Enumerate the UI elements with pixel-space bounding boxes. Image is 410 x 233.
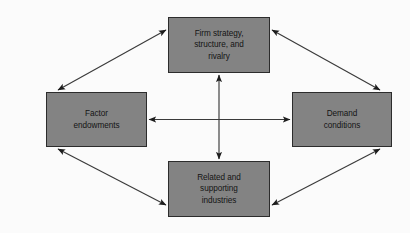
node-factor-endowments-label: Factor endowments [70, 108, 124, 130]
node-related-supporting[interactable]: Related and supporting industries [168, 161, 270, 217]
node-firm-strategy-label: Firm strategy, structure, and rivalry [190, 28, 247, 62]
node-demand-conditions-label: Demand conditions [320, 108, 364, 130]
connector-firm-strategy-to-factor-endowments [58, 30, 166, 90]
node-demand-conditions[interactable]: Demand conditions [292, 92, 392, 147]
node-related-supporting-label: Related and supporting industries [193, 172, 245, 206]
node-firm-strategy[interactable]: Firm strategy, structure, and rivalry [168, 17, 270, 73]
porters-diamond-diagram: Firm strategy, structure, and rivalry Fa… [0, 0, 410, 233]
node-factor-endowments[interactable]: Factor endowments [46, 92, 147, 147]
connector-demand-conditions-to-related-supporting [272, 149, 380, 205]
connector-factor-endowments-to-related-supporting [58, 149, 166, 205]
connector-firm-strategy-to-demand-conditions [272, 30, 380, 90]
